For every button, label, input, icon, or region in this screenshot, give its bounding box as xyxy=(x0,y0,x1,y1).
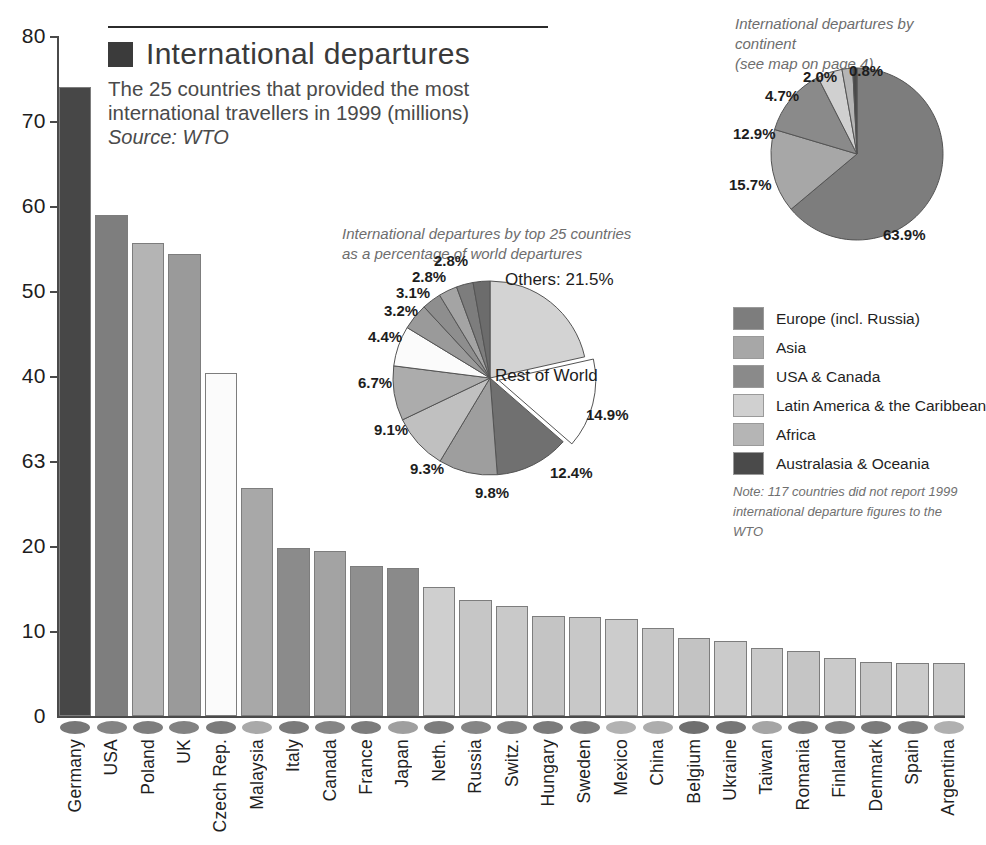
x-axis-tick-label: Denmark xyxy=(866,739,887,811)
x-axis-tick-label: Neth. xyxy=(429,739,450,782)
category-marker-icon xyxy=(279,721,309,734)
x-axis-tick-label: Malaysia xyxy=(247,739,268,810)
x-axis-tick-label: Italy xyxy=(283,739,304,772)
legend-swatch-icon xyxy=(733,452,764,475)
pie-value-label-2-0: 2.0% xyxy=(803,68,837,85)
x-axis-tick-label: Germany xyxy=(65,739,86,812)
category-marker-icon xyxy=(60,721,90,734)
pie-value-label-6-7: 6.7% xyxy=(358,374,392,391)
x-axis-category: Switz. xyxy=(496,720,528,842)
category-marker-icon xyxy=(97,721,127,734)
top25-pie-caption: International departures by top 25 count… xyxy=(342,224,662,264)
y-axis-tick-label: 0 xyxy=(0,704,46,728)
title-subtitle-line2: international travellers in 1999 (millio… xyxy=(108,101,548,125)
x-axis-category: Spain xyxy=(896,720,928,842)
x-axis-category: USA xyxy=(95,720,127,842)
x-axis-category: Belgium xyxy=(678,720,710,842)
bar xyxy=(277,548,309,716)
bar xyxy=(496,606,528,717)
x-axis-tick-label: Argentina xyxy=(938,739,959,816)
legend-item: USA & Canada xyxy=(733,365,972,388)
top25-pie-block: International departures by top 25 count… xyxy=(338,224,668,504)
legend-swatch-icon xyxy=(733,423,764,446)
x-axis-category: Ukraine xyxy=(714,720,746,842)
y-axis-tick-label: 60 xyxy=(0,194,46,218)
y-axis-tick-label: 80 xyxy=(0,24,46,48)
x-axis-tick-label: Canada xyxy=(320,739,341,802)
pie-value-label-9-1: 9.1% xyxy=(374,421,408,438)
pie-value-label-9-8: 9.8% xyxy=(475,484,509,501)
x-axis-category: China xyxy=(642,720,674,842)
legend-item: Africa xyxy=(733,423,972,446)
bar xyxy=(459,600,491,716)
x-axis-tick-label: UK xyxy=(174,739,195,764)
x-axis-category: Taiwan xyxy=(751,720,783,842)
legend-item: Latin America & the Caribbean xyxy=(733,394,972,417)
legend-item: Australasia & Oceania xyxy=(733,452,972,475)
bar xyxy=(860,662,892,716)
top25-pie-caption-line1: International departures by top 25 count… xyxy=(342,224,662,244)
bar xyxy=(933,663,965,716)
x-axis-category: Denmark xyxy=(860,720,892,842)
x-axis-category: Argentina xyxy=(933,720,965,842)
bar xyxy=(205,373,237,716)
x-axis-tick-label: Japan xyxy=(392,739,413,788)
category-marker-icon xyxy=(169,721,199,734)
category-marker-icon xyxy=(497,721,527,734)
category-marker-icon xyxy=(570,721,600,734)
x-axis-tick-label: Mexico xyxy=(611,739,632,796)
y-axis-tick-label: 10 xyxy=(0,619,46,643)
page-title: International departures xyxy=(146,37,470,71)
y-axis-tick-label: 50 xyxy=(0,279,46,303)
legend-note: Note: 117 countries did not report 1999 … xyxy=(733,482,972,542)
x-axis-category: Italy xyxy=(277,720,309,842)
continent-pie-block: International departures by continent (s… xyxy=(733,14,972,304)
x-axis-category: Poland xyxy=(132,720,164,842)
x-axis-tick-label: Belgium xyxy=(684,739,705,804)
legend-item-label: Australasia & Oceania xyxy=(776,455,929,473)
x-axis-category: Japan xyxy=(387,720,419,842)
bar xyxy=(532,616,564,716)
x-axis-category: Mexico xyxy=(605,720,637,842)
pie-value-label-4-4: 4.4% xyxy=(368,328,402,345)
x-axis-category: Czech Rep. xyxy=(205,720,237,842)
legend-item: Asia xyxy=(733,336,972,359)
bar-item xyxy=(59,36,91,716)
category-marker-icon xyxy=(825,721,855,734)
x-axis-tick-label: Ukraine xyxy=(720,739,741,801)
x-axis-line xyxy=(57,716,965,718)
x-axis-tick-label: Finland xyxy=(829,739,850,798)
pie-label-rest-of-world: Rest of World xyxy=(495,366,598,386)
category-marker-icon xyxy=(716,721,746,734)
bar xyxy=(642,628,674,716)
bar xyxy=(59,87,91,716)
title-subtitle-line1: The 25 countries that provided the most xyxy=(108,77,548,101)
x-axis-tick-label: Sweden xyxy=(574,739,595,803)
category-marker-icon xyxy=(133,721,163,734)
x-axis-tick-label: Taiwan xyxy=(756,739,777,795)
category-marker-icon xyxy=(461,721,491,734)
category-marker-icon xyxy=(206,721,236,734)
pie-value-label-3-1: 3.1% xyxy=(396,284,430,301)
y-axis-tick-mark xyxy=(50,631,59,633)
category-marker-icon xyxy=(606,721,636,734)
x-axis-tick-label: Poland xyxy=(138,739,159,795)
y-axis-tick-mark xyxy=(50,121,59,123)
pie-value-label-9-3: 9.3% xyxy=(410,460,444,477)
category-marker-icon xyxy=(388,721,418,734)
bar xyxy=(605,619,637,716)
category-marker-icon xyxy=(315,721,345,734)
x-axis-tick-label: Spain xyxy=(902,739,923,785)
legend-item-label: USA & Canada xyxy=(776,368,880,386)
continent-pie-caption-line1: International departures by continent xyxy=(735,14,972,54)
y-axis-tick-mark xyxy=(50,206,59,208)
x-axis-category: Sweden xyxy=(569,720,601,842)
category-marker-icon xyxy=(752,721,782,734)
bar xyxy=(132,243,164,716)
legend-swatch-icon xyxy=(733,394,764,417)
legend-note-line1: Note: 117 countries did not report 1999 xyxy=(733,482,972,502)
continent-pie-chart: 63.9%15.7%12.9%4.7%2.0%0.8% xyxy=(771,68,943,240)
x-axis-tick-label: Czech Rep. xyxy=(210,739,231,832)
legend-swatch-icon xyxy=(733,307,764,330)
pie-value-label-15-7: 15.7% xyxy=(729,176,772,193)
